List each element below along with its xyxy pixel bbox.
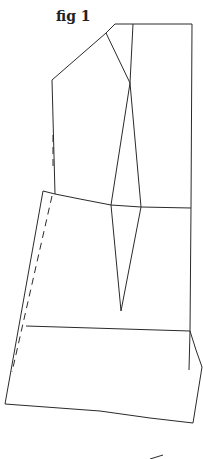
skirt-left-edge [5,191,43,404]
lower-dart [111,205,141,311]
dashed-guide-line [12,196,52,372]
center-front-line [189,24,192,370]
hip-line [26,326,190,331]
upper-outline [52,24,192,80]
upper-dart-right [130,24,141,207]
pattern-diagram [0,0,203,459]
upper-dart [106,33,130,205]
right-lower-edge [190,331,202,423]
arrow-mark [150,455,163,459]
waist-line [43,191,191,208]
hem-line [5,404,193,423]
